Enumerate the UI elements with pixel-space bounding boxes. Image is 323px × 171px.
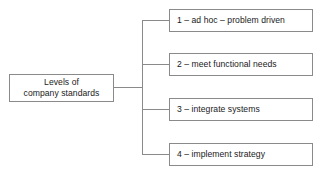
root-node-levels-of-company-standards: Levels of company standards: [9, 74, 114, 102]
level-node-2: 2 – meet functional needs: [169, 53, 313, 76]
connector-branch-level-3: [142, 109, 169, 110]
connector-root-to-trunk: [114, 87, 143, 88]
connector-branch-level-2: [142, 64, 169, 65]
level-node-3: 3 – integrate systems: [169, 98, 313, 121]
connector-branch-level-4: [142, 154, 169, 155]
levels-of-company-standards-diagram: Levels of company standards 1 – ad hoc –…: [0, 0, 323, 171]
level-node-4: 4 – implement strategy: [169, 143, 313, 166]
connector-branch-level-1: [142, 20, 169, 21]
connector-vertical-trunk: [142, 20, 143, 154]
level-node-1: 1 – ad hoc – problem driven: [169, 9, 313, 32]
